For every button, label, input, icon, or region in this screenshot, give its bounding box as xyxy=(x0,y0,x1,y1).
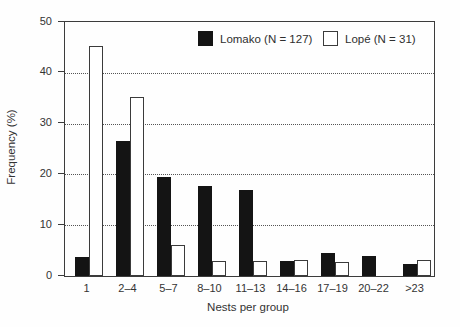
bar-lomako-2-4 xyxy=(116,141,130,276)
y-tick-label-30: 30 xyxy=(22,116,52,129)
x-axis-title: Nests per group xyxy=(158,301,338,313)
legend-label-lomako: Lomako (N = 127) xyxy=(220,33,312,45)
bar-lope-2-4 xyxy=(130,97,144,276)
plot-area: Lomako (N = 127) Lopé (N = 31) xyxy=(64,21,435,277)
bar-lomako-1 xyxy=(75,257,89,276)
x-tick-label--23: >23 xyxy=(391,282,439,295)
y-tick-30 xyxy=(58,122,64,123)
bar-lope-5-7 xyxy=(171,245,185,276)
y-tick-label-0: 0 xyxy=(22,269,52,282)
bar-lomako-14-16 xyxy=(280,261,294,276)
bar-lope-14-16 xyxy=(294,260,308,276)
bar-lope-17-19 xyxy=(335,262,349,276)
y-tick-label-10: 10 xyxy=(22,218,52,231)
bar-lomako-20-22 xyxy=(362,256,376,276)
bar-lomako-5-7 xyxy=(157,177,171,276)
bar-lope--23 xyxy=(417,260,431,276)
y-tick-20 xyxy=(58,173,64,174)
gridline-30 xyxy=(65,124,434,125)
y-tick-0 xyxy=(58,275,64,276)
gridline-40 xyxy=(65,73,434,74)
y-tick-40 xyxy=(58,71,64,72)
y-tick-label-20: 20 xyxy=(22,167,52,180)
legend-label-lope: Lopé (N = 31) xyxy=(345,33,416,45)
y-tick-label-40: 40 xyxy=(22,65,52,78)
y-axis-title: Frequency (%) xyxy=(5,92,17,202)
legend-swatch-lomako-icon xyxy=(198,31,213,46)
y-tick-50 xyxy=(58,21,64,22)
legend-item-lope: Lopé (N = 31) xyxy=(323,31,416,46)
bar-lope-1 xyxy=(89,46,103,276)
legend-swatch-lope-icon xyxy=(323,31,338,46)
y-tick-10 xyxy=(58,224,64,225)
bar-lope-11-13 xyxy=(253,261,267,276)
bar-lomako--23 xyxy=(403,264,417,276)
legend-item-lomako: Lomako (N = 127) xyxy=(198,31,312,46)
y-tick-label-50: 50 xyxy=(22,15,52,28)
bar-lomako-17-19 xyxy=(321,253,335,276)
bar-lope-8-10 xyxy=(212,261,226,276)
chart-figure: Frequency (%) Lomako (N = 127) Lopé (N =… xyxy=(0,0,460,327)
bar-lomako-11-13 xyxy=(239,190,253,276)
bar-lomako-8-10 xyxy=(198,186,212,276)
